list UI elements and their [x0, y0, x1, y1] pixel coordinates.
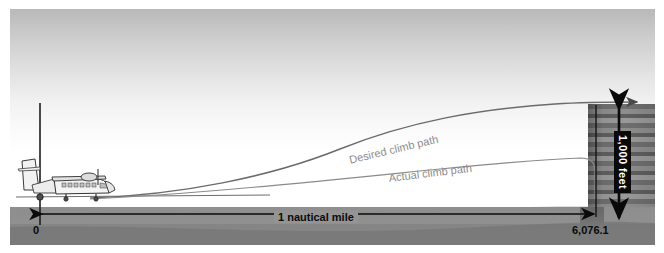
diagram-frame: Desired climb path Actual climb path 1 n…: [10, 9, 655, 245]
thousand-feet-label: 1,000 feet: [614, 131, 631, 193]
figure-canvas: Desired climb path Actual climb path 1 n…: [0, 0, 664, 253]
aircraft-engine-nacelle: [81, 173, 97, 181]
aircraft-illustration: [18, 159, 115, 201]
origin-marker-dot: [37, 194, 43, 200]
nautical-mile-label: 1 nautical mile: [274, 211, 358, 223]
axis-end-tick-label: 6,076.1: [572, 224, 609, 236]
aircraft-horizontal-stabilizer: [18, 167, 40, 171]
actual-climb-path-line: [90, 158, 595, 199]
axis-start-tick-label: 0: [33, 224, 39, 236]
diagram-vector-layer: [10, 9, 655, 245]
